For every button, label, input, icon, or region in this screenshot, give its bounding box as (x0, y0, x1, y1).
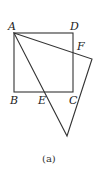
label-b: B (9, 94, 18, 107)
square-abcd (14, 33, 73, 92)
label-e: E (37, 94, 46, 107)
label-d: D (69, 20, 79, 33)
label-a: A (7, 20, 16, 33)
label-c: C (69, 94, 78, 107)
figure-caption: (a) (42, 153, 56, 164)
geometry-figure: A D F B E C (a) (0, 0, 100, 170)
label-f: F (76, 40, 85, 53)
